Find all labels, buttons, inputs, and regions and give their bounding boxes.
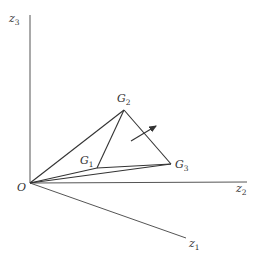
axis-z1 [30, 183, 186, 238]
origin-label: O [17, 181, 26, 194]
point-label-G2: G2 [117, 92, 131, 107]
diagram-svg: z3 z2 z1 O G2 G1 G3 [0, 0, 268, 258]
point-label-G1: G1 [80, 154, 94, 169]
axis-label-z3: z3 [8, 12, 20, 27]
edge-G1-G2 [97, 110, 124, 168]
axis-label-z2: z2 [235, 182, 247, 197]
axis-z2 [30, 182, 247, 183]
edge-G2-G3 [124, 110, 171, 164]
point-label-G3: G3 [175, 158, 189, 173]
axis-label-z1: z1 [188, 237, 200, 252]
diagram-canvas: z3 z2 z1 O G2 G1 G3 [0, 0, 268, 258]
normal-arrow [131, 126, 156, 141]
